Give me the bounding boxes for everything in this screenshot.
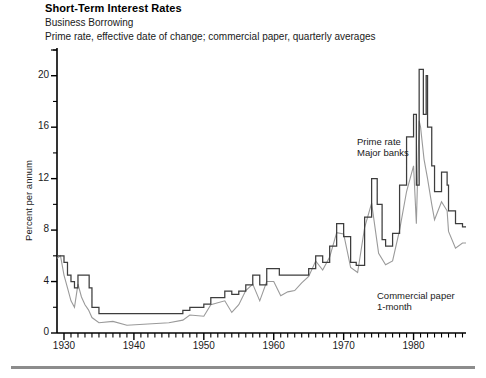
annotation-prime-rate: Prime rate Major banks — [357, 136, 409, 158]
y-axis-label: Percent per annum — [23, 131, 34, 271]
y-tick-4: 4 — [27, 275, 49, 286]
chart-title: Short-Term Interest Rates — [45, 2, 182, 14]
chart-page: Short-Term Interest Rates Business Borro… — [0, 0, 486, 378]
annotation-prime-rate-line2: Major banks — [357, 147, 409, 158]
footer-rule — [11, 366, 475, 369]
x-tick-1960: 1960 — [257, 340, 291, 351]
x-tick-1930: 1930 — [47, 340, 81, 351]
x-tick-1940: 1940 — [117, 340, 151, 351]
annotation-commercial-paper-line1: Commercial paper — [377, 290, 455, 301]
x-tick-1980: 1980 — [397, 340, 431, 351]
data-series — [57, 69, 466, 325]
annotation-prime-rate-line1: Prime rate — [357, 136, 409, 147]
annotation-commercial-paper: Commercial paper 1-month — [377, 290, 455, 312]
x-tick-1970: 1970 — [327, 340, 361, 351]
annotation-commercial-paper-line2: 1-month — [377, 301, 455, 312]
y-tick-16: 16 — [27, 120, 49, 131]
y-tick-0: 0 — [27, 326, 49, 337]
series-prime-rate — [57, 69, 466, 313]
y-tick-8: 8 — [27, 223, 49, 234]
x-tick-1950: 1950 — [187, 340, 221, 351]
y-tick-20: 20 — [27, 69, 49, 80]
chart-caption: Prime rate, effective date of change; co… — [45, 31, 376, 42]
y-tick-12: 12 — [27, 172, 49, 183]
chart-subtitle: Business Borrowing — [45, 17, 133, 28]
